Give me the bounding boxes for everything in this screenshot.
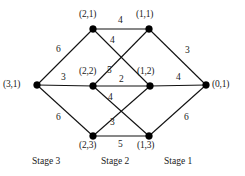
edge-weight-label: 3 bbox=[185, 46, 190, 56]
node-label: (2,3) bbox=[79, 141, 96, 151]
graph-node bbox=[90, 26, 97, 33]
graph-node bbox=[146, 26, 153, 33]
network-diagram: (3,1)(2,1)(2,2)(2,3)(1,1)(1,2)(1,3)(0,1)… bbox=[0, 0, 245, 176]
edge-weight-label: 3 bbox=[61, 73, 66, 83]
graph-canvas bbox=[0, 0, 245, 176]
node-label: (1,2) bbox=[137, 67, 154, 77]
stage-label-stage-2: Stage 2 bbox=[101, 157, 129, 167]
edge-weight-label: 4 bbox=[108, 93, 113, 103]
graph-node bbox=[203, 82, 210, 89]
edge-weight-label: 2 bbox=[119, 75, 124, 85]
edge-weight-label: 6 bbox=[56, 45, 61, 55]
node-label: (2,2) bbox=[79, 67, 96, 77]
edge-weight-label: 6 bbox=[56, 113, 61, 123]
graph-node bbox=[90, 133, 97, 140]
edge-weight-label: 6 bbox=[184, 113, 189, 123]
graph-edge bbox=[37, 85, 93, 136]
stage-label-stage-1: Stage 1 bbox=[164, 157, 192, 167]
node-label: (3,1) bbox=[3, 80, 20, 90]
graph-node bbox=[147, 83, 154, 90]
graph-edge bbox=[37, 85, 93, 86]
node-label: (0,1) bbox=[212, 80, 229, 90]
node-label: (1,1) bbox=[136, 10, 153, 20]
stage-label-stage-3: Stage 3 bbox=[32, 157, 60, 167]
graph-node bbox=[34, 82, 41, 89]
edge-weight-label: 4 bbox=[176, 73, 181, 83]
graph-edge bbox=[149, 85, 206, 136]
graph-node bbox=[90, 83, 97, 90]
edge-weight-label: 3 bbox=[110, 118, 115, 128]
graph-edge bbox=[150, 85, 206, 86]
node-label: (1,3) bbox=[137, 141, 154, 151]
edge-weight-label: 5 bbox=[118, 140, 123, 150]
graph-node bbox=[146, 133, 153, 140]
edge-weight-label: 4 bbox=[110, 36, 115, 46]
edge-weight-label: 5 bbox=[107, 66, 112, 76]
node-label: (2,1) bbox=[79, 10, 96, 20]
edge-weight-label: 4 bbox=[118, 16, 123, 26]
